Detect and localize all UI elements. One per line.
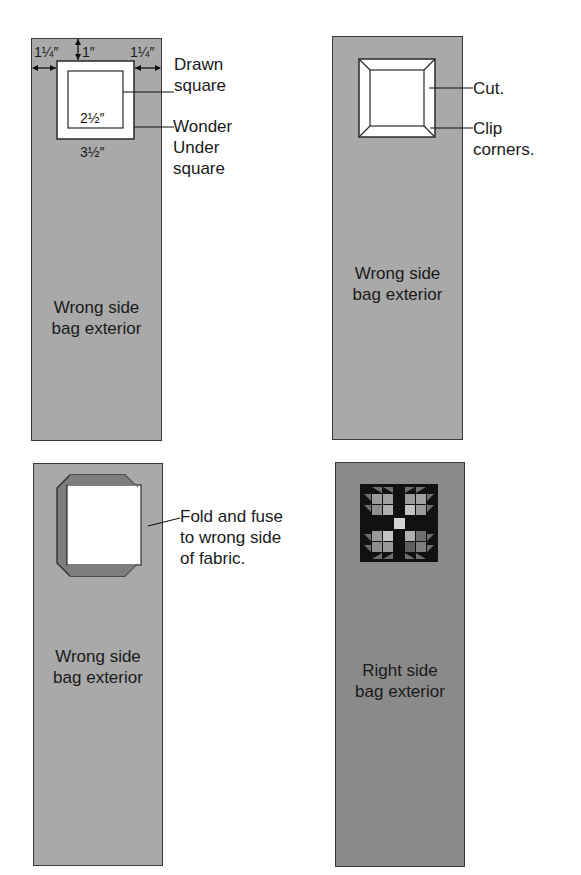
patchwork-block: [0, 0, 581, 875]
